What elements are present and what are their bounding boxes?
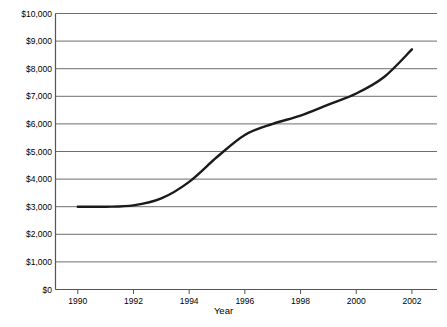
y-axis-tick-label: $3,000 — [2, 202, 52, 212]
y-axis-tick-label: $9,000 — [2, 36, 52, 46]
y-axis-tick-label: $2,000 — [2, 229, 52, 239]
gridlines — [56, 14, 438, 262]
x-axis-title: Year — [0, 305, 447, 316]
y-axis-tick-label: $10,000 — [2, 9, 52, 19]
y-axis-tick-label: $5,000 — [2, 147, 52, 157]
x-axis-ticks — [78, 290, 412, 295]
y-axis-tick-label: $4,000 — [2, 174, 52, 184]
y-axis-tick-label: $6,000 — [2, 119, 52, 129]
data-series-line — [78, 49, 412, 206]
y-axis-tick-label: $7,000 — [2, 91, 52, 101]
chart-container: $0$1,000$2,000$3,000$4,000$5,000$6,000$7… — [0, 0, 447, 327]
y-axis-tick-label: $8,000 — [2, 64, 52, 74]
y-axis-tick-label: $0 — [2, 285, 52, 295]
y-axis-tick-label: $1,000 — [2, 257, 52, 267]
chart-plot-area — [0, 0, 447, 327]
